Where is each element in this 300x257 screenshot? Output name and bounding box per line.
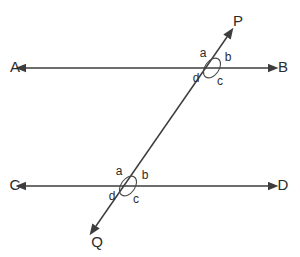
label-b-endpoint: B	[278, 58, 288, 75]
line-pq-transversal	[96, 37, 227, 226]
label-p-endpoint: P	[233, 12, 243, 29]
label-q-endpoint: Q	[91, 233, 103, 250]
label-d-endpoint: D	[278, 176, 289, 193]
angle-label-upper-b: b	[225, 50, 232, 64]
angle-label-lower-a: a	[116, 164, 123, 178]
angle-label-lower-b: b	[142, 168, 149, 182]
geometry-diagram: A B C D P Q a b c d a b c d	[0, 0, 300, 257]
angle-label-lower-c: c	[133, 192, 139, 206]
angle-label-upper-d: d	[193, 71, 200, 85]
angle-label-lower-d: d	[109, 189, 116, 203]
label-a-endpoint: A	[10, 58, 20, 75]
diagram-canvas: A B C D P Q a b c d a b c d	[0, 0, 300, 257]
angle-label-upper-a: a	[200, 46, 207, 60]
label-c-endpoint: C	[10, 176, 21, 193]
angle-label-upper-c: c	[217, 74, 223, 88]
